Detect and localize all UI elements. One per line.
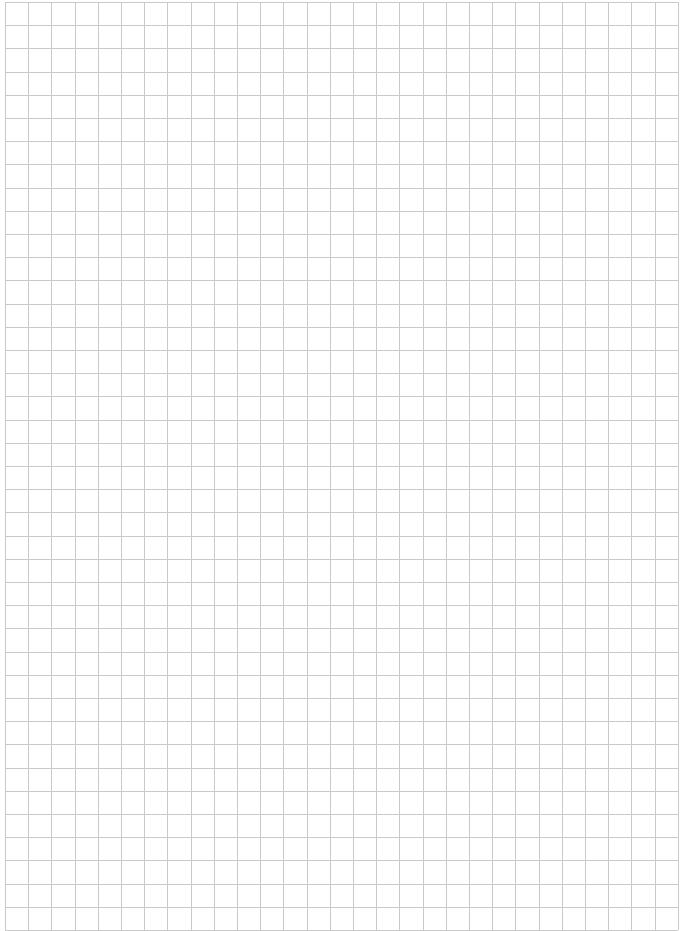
grid-lines	[5, 2, 679, 931]
